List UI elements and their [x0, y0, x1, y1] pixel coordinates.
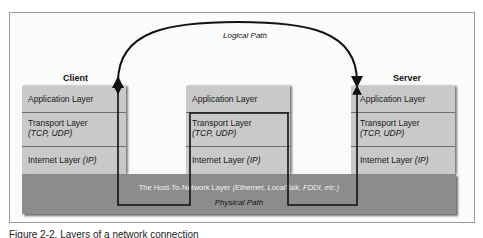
physical-path-line — [118, 90, 357, 205]
logical-path-label: Logical Path — [200, 31, 290, 40]
figure-caption: Figure 2-2. Layers of a network connecti… — [9, 229, 199, 238]
